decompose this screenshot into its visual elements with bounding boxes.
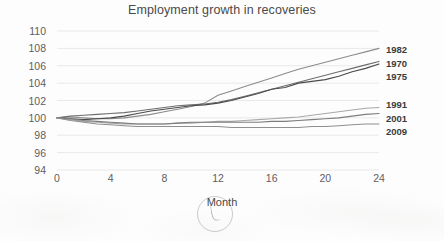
x-axis-title: Month (0, 196, 444, 208)
y-axis-tick-label: 104 (12, 77, 46, 89)
y-axis-tick-label: 100 (12, 112, 46, 124)
y-axis-tick-label: 110 (12, 25, 46, 37)
x-axis-title-text: Month (207, 196, 238, 208)
x-axis-tick-label: 16 (266, 172, 278, 184)
series-label-1982: 1982 (386, 44, 407, 55)
x-axis: 04812162024 (0, 172, 444, 188)
series-label-2009: 2009 (386, 126, 407, 137)
y-axis-tick-label: 98 (12, 129, 46, 141)
y-axis-tick-label: 96 (12, 147, 46, 159)
y-axis-tick-label: 108 (12, 42, 46, 54)
x-axis-tick-label: 4 (108, 172, 114, 184)
series-label-1975: 1975 (386, 71, 407, 82)
x-axis-tick-label: 0 (54, 172, 60, 184)
series-line-1970 (57, 61, 379, 117)
series-label-1991: 1991 (386, 99, 407, 110)
chart-title: Employment growth in recoveries (0, 3, 444, 17)
y-axis-tick-label: 106 (12, 60, 46, 72)
gridlines (57, 31, 379, 170)
series-label-1970: 1970 (386, 58, 407, 69)
x-axis-tick-label: 8 (161, 172, 167, 184)
y-axis-tick-label: 102 (12, 95, 46, 107)
series-line-1975 (57, 64, 379, 120)
x-axis-tick-label: 20 (319, 172, 331, 184)
chart-container: Employment growth in recoveries 94969810… (0, 0, 444, 241)
x-axis-tick-label: 24 (373, 172, 385, 184)
series-lines (57, 48, 379, 127)
series-label-2001: 2001 (386, 113, 407, 124)
x-axis-tick-label: 12 (212, 172, 224, 184)
